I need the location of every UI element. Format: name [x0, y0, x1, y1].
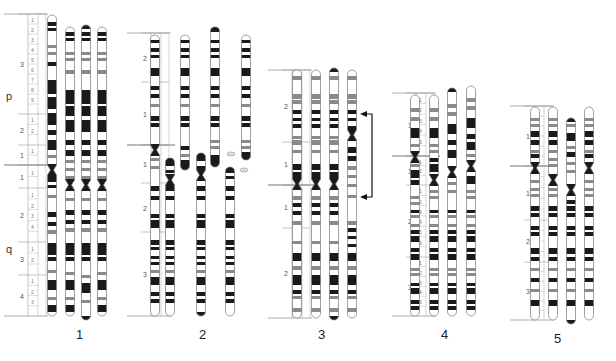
band [180, 146, 191, 150]
band [241, 116, 252, 121]
band [225, 292, 236, 296]
chromatid [466, 85, 477, 317]
chromosome-number: 4 [441, 327, 448, 342]
band [225, 240, 236, 245]
band [225, 214, 236, 218]
band [196, 292, 207, 296]
band [81, 300, 92, 303]
region-label: 2 [20, 127, 24, 134]
band [329, 308, 340, 312]
band [47, 305, 58, 312]
band [292, 253, 303, 261]
band [530, 188, 541, 191]
band [548, 140, 559, 145]
band [447, 236, 458, 242]
band [530, 194, 541, 197]
band [292, 124, 303, 128]
svg-text:1: 1 [31, 117, 34, 123]
band [429, 248, 440, 252]
band [65, 106, 76, 116]
band [65, 120, 76, 132]
band [81, 257, 92, 261]
band [329, 221, 340, 225]
band [180, 68, 191, 76]
band [530, 118, 541, 121]
band [150, 262, 161, 265]
band [447, 112, 458, 116]
band [47, 140, 58, 150]
band [311, 241, 322, 244]
band [329, 275, 340, 285]
band [329, 241, 340, 244]
band [81, 283, 92, 293]
band [47, 97, 58, 109]
svg-text:2: 2 [31, 27, 34, 33]
band [165, 277, 176, 285]
band [311, 172, 322, 178]
svg-text:2: 2 [31, 289, 34, 295]
chromosome-number: 5 [554, 331, 561, 346]
band [566, 124, 577, 127]
band [584, 206, 595, 211]
satellite [240, 168, 248, 172]
region-label: 1 [284, 204, 288, 211]
band [165, 299, 176, 303]
band [410, 144, 421, 147]
band [196, 196, 207, 200]
band [292, 118, 303, 121]
band [466, 288, 477, 294]
band [447, 224, 458, 227]
band [530, 248, 541, 254]
band [150, 220, 161, 228]
band [47, 28, 58, 31]
band [429, 306, 440, 310]
band [410, 202, 421, 205]
band [225, 186, 236, 191]
band [150, 123, 161, 127]
band [180, 154, 191, 157]
band [65, 160, 76, 163]
band [97, 120, 108, 132]
band [429, 300, 440, 304]
band [584, 124, 595, 127]
band [241, 104, 252, 107]
band [410, 108, 421, 112]
svg-text:1: 1 [31, 192, 34, 198]
region-label: 3 [526, 288, 530, 295]
band [447, 254, 458, 260]
region-label: 3 [20, 61, 24, 68]
chromatid [311, 69, 322, 319]
band [429, 254, 440, 260]
band [584, 154, 595, 158]
band [311, 76, 322, 80]
band [466, 134, 477, 139]
band [329, 136, 340, 139]
band [410, 283, 421, 286]
band [429, 196, 440, 199]
band [466, 254, 477, 260]
band [447, 190, 458, 193]
band [65, 32, 76, 36]
band [466, 248, 477, 252]
band [165, 214, 176, 218]
chromatid [566, 117, 577, 325]
band [65, 297, 76, 300]
band [429, 215, 440, 218]
band [347, 308, 358, 312]
region-label: 2 [143, 55, 147, 62]
band [530, 206, 541, 211]
band [466, 210, 477, 213]
band [530, 131, 541, 137]
svg-text:9: 9 [31, 97, 34, 103]
band [97, 305, 108, 312]
band [210, 104, 221, 107]
band [548, 300, 559, 306]
band [584, 140, 595, 145]
chromatid [97, 26, 108, 317]
band [530, 150, 541, 153]
band [196, 270, 207, 273]
band [429, 144, 440, 147]
band [311, 94, 322, 99]
band [210, 123, 221, 127]
chromatid [429, 94, 440, 317]
